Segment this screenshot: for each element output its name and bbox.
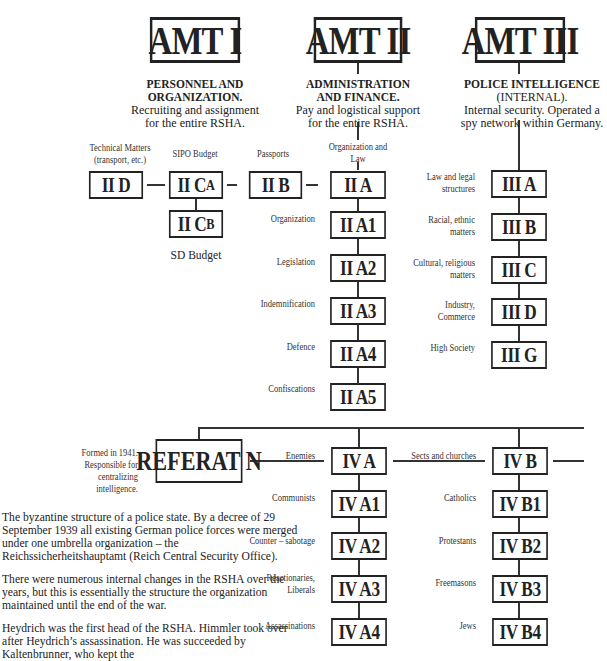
- ii-a-box[interactable]: II A: [330, 171, 386, 199]
- unit-code: III C: [502, 258, 537, 283]
- unit-code: II C: [178, 212, 207, 237]
- amt-3-desc-line: spy network within Germany.: [452, 117, 607, 130]
- ii-b-label: Passports: [243, 148, 303, 160]
- amt-1-heading-line: PERSONNEL AND: [120, 78, 270, 91]
- iv-b-label: Sects and churches: [394, 450, 476, 462]
- label-line: Organization and: [320, 141, 397, 153]
- label-line: SIPO Budget: [172, 148, 217, 159]
- amt-2-description: ADMINISTRATION AND FINANCE. Pay and logi…: [283, 78, 433, 130]
- unit-code: II A2: [340, 256, 376, 281]
- iv-a4-box[interactable]: IV A4: [331, 618, 387, 646]
- ii-cb-label: SD Budget: [150, 249, 242, 262]
- connector: [553, 460, 584, 462]
- iii-d-label: Industry,Commerce: [390, 299, 475, 323]
- unit-code: IV B: [504, 449, 537, 474]
- label-text: Defence: [287, 341, 315, 352]
- ii-d-box[interactable]: II D: [89, 171, 143, 199]
- iv-a2-box[interactable]: IV A2: [331, 532, 387, 560]
- iv-b4-box[interactable]: IV B4: [492, 618, 548, 646]
- unit-code: II A3: [340, 299, 376, 324]
- iv-a-box[interactable]: IV A: [331, 447, 387, 475]
- iv-b1-box[interactable]: IV B1: [492, 490, 548, 518]
- ii-b-box[interactable]: II B: [249, 171, 302, 199]
- label-text: Jews: [459, 620, 476, 631]
- referat-note: Formed in 1941. Responsible for centrali…: [46, 447, 138, 495]
- label-text: Organization: [271, 213, 315, 224]
- amt-3-title: AMT III: [462, 17, 579, 64]
- unit-code: IV B1: [499, 492, 540, 517]
- note-line: Formed in 1941.: [46, 447, 138, 459]
- iii-g-label: High Society: [390, 342, 475, 354]
- connector: [357, 62, 359, 74]
- label-line: High Society: [390, 342, 475, 354]
- ii-ca-label: SIPO Budget: [157, 148, 234, 160]
- unit-code: IV A2: [338, 534, 379, 559]
- connector: [357, 368, 359, 384]
- ii-a1-box[interactable]: II A1: [330, 211, 386, 239]
- label-text: Legislation: [277, 256, 315, 267]
- iii-c-box[interactable]: III C: [491, 256, 547, 284]
- connector: [227, 184, 237, 186]
- caption: The byzantine structure of a police stat…: [2, 511, 302, 661]
- label-line: Industry,: [390, 299, 475, 311]
- unit-code: II A5: [340, 385, 376, 410]
- iv-b2-label: Protestants: [394, 535, 476, 547]
- unit-code: IV A: [343, 449, 376, 474]
- iii-b-box[interactable]: III B: [491, 213, 547, 241]
- note-line: Responsible for centralizing: [46, 459, 138, 483]
- unit-code: III A: [502, 172, 536, 197]
- ii-ca-box[interactable]: II CA: [169, 171, 223, 199]
- label-line: Passports: [257, 148, 289, 159]
- unit-code-sub: A: [206, 177, 214, 194]
- iii-a-box[interactable]: III A: [491, 170, 547, 198]
- iv-b3-label: Freemasons: [394, 577, 476, 589]
- iii-c-label: Cultural, religiousmatters: [390, 257, 475, 281]
- label-text: Freemasons: [435, 577, 476, 588]
- label-line: Cultural, religious: [390, 257, 475, 269]
- amt-3-description: POLICE INTELLIGENCE (INTERNAL). Internal…: [452, 78, 607, 130]
- amt-2-desc-line: for the entire RSHA.: [283, 117, 433, 130]
- amt-2-box[interactable]: AMT II: [314, 17, 403, 63]
- connector: [198, 427, 584, 429]
- label-line: Law: [320, 153, 397, 165]
- iv-b-box[interactable]: IV B: [492, 447, 548, 475]
- ii-cb-box[interactable]: II CB: [169, 210, 223, 238]
- iv-b3-box[interactable]: IV B3: [492, 575, 548, 603]
- unit-code: IV B4: [499, 620, 540, 645]
- amt-2-title: AMT II: [306, 17, 411, 64]
- unit-code: IV A3: [338, 577, 379, 602]
- unit-code: II D: [102, 173, 131, 198]
- unit-code: II C: [177, 173, 206, 198]
- unit-code: III B: [502, 215, 536, 240]
- connector: [518, 427, 520, 449]
- unit-code: II A4: [340, 342, 376, 367]
- iv-a1-box[interactable]: IV A1: [331, 490, 387, 518]
- label-line: structures: [390, 183, 475, 195]
- amt-1-desc-line: for the entire RSHA.: [120, 117, 270, 130]
- ii-a5-box[interactable]: II A5: [330, 383, 386, 411]
- label-text: Indemnification: [261, 298, 315, 309]
- amt-1-box[interactable]: AMT I: [150, 17, 240, 63]
- iii-d-box[interactable]: III D: [491, 298, 547, 326]
- unit-code: III G: [501, 343, 537, 368]
- label-text: Enemies: [286, 450, 315, 461]
- label-line: Commerce: [390, 311, 475, 323]
- ii-d-label: Technical Matters (transport, etc.): [78, 142, 163, 166]
- ii-a2-box[interactable]: II A2: [330, 254, 386, 282]
- iii-g-box[interactable]: III G: [491, 341, 547, 369]
- amt-1-title: AMT I: [149, 17, 242, 64]
- ii-a1-label: Organization: [230, 213, 315, 225]
- iv-b1-label: Catholics: [394, 492, 476, 504]
- caption-paragraph: There were numerous internal changes in …: [2, 573, 302, 612]
- ii-a4-box[interactable]: II A4: [330, 340, 386, 368]
- ii-a3-label: Indemnification: [230, 298, 315, 310]
- iv-b2-box[interactable]: IV B2: [492, 532, 548, 560]
- label-text: Confiscations: [268, 383, 315, 394]
- label-line: Law and legal: [390, 171, 475, 183]
- iv-a1-label: Communists: [230, 492, 315, 504]
- ii-a3-box[interactable]: II A3: [330, 297, 386, 325]
- iv-a3-box[interactable]: IV A3: [331, 575, 387, 603]
- amt-3-box[interactable]: AMT III: [475, 17, 565, 63]
- amt-2-heading-line: ADMINISTRATION: [283, 78, 433, 91]
- unit-code: IV B2: [499, 534, 540, 559]
